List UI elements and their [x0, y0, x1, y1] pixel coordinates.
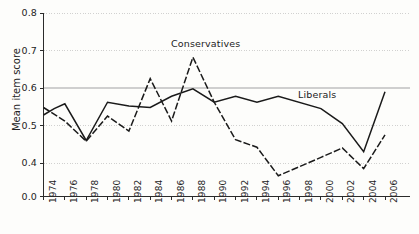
x-tick-label: 1978 [90, 180, 100, 203]
y-tick-label: 0.7 [11, 45, 37, 56]
x-tick-label: 1976 [69, 180, 79, 203]
plot-area [0, 0, 419, 234]
x-tick-label: 1984 [154, 180, 164, 203]
x-tick-label: 1988 [197, 180, 207, 203]
y-tick-label: 0.8 [11, 7, 37, 18]
series-layer [44, 57, 386, 176]
x-tick-label: 1996 [282, 180, 292, 203]
x-tick-label: 1980 [112, 180, 122, 203]
x-tick-label: 1974 [48, 180, 58, 203]
x-tick-label: 2004 [368, 180, 378, 203]
x-tick-label: 2002 [346, 180, 356, 203]
x-tick-label: 1982 [133, 180, 143, 203]
y-tick-label: 0.4 [11, 157, 37, 168]
x-tick-label: 1992 [240, 180, 250, 203]
y-tick-label: 0.5 [11, 120, 37, 131]
series-label-liberals: Liberals [298, 89, 336, 100]
y-tick-label: 0.6 [11, 82, 37, 93]
y-tick-label: 0.0 [11, 191, 37, 202]
series-line-conservatives [44, 57, 386, 176]
series-label-conservatives: Conservatives [171, 38, 240, 49]
x-tick-label: 1990 [218, 180, 228, 203]
x-tick-label: 1998 [304, 180, 314, 203]
x-tick-label: 2000 [325, 180, 335, 203]
x-tick-label: 1994 [261, 180, 271, 203]
x-tick-label: 1986 [176, 180, 186, 203]
x-tick-label: 2006 [389, 180, 399, 203]
line-chart: Mean item score 0.00.40.50.60.70.8 19741… [0, 0, 419, 234]
